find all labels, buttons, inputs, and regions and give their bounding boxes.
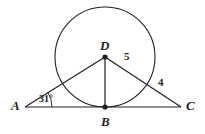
measure-label-4: 4	[158, 77, 164, 88]
segment-ad	[25, 57, 105, 107]
angle-label-a: 31°	[39, 94, 53, 104]
vertex-dot-d	[102, 54, 107, 59]
vertex-label-d: D	[100, 39, 109, 52]
vertex-dot-b	[102, 104, 107, 109]
measure-label-5: 5	[124, 51, 130, 62]
vertex-label-a: A	[11, 99, 20, 112]
segment-dc	[105, 57, 181, 107]
vertex-label-c: C	[186, 99, 195, 112]
vertex-label-b: B	[101, 115, 110, 128]
geometry-figure: A B C D 5 4 31°	[0, 0, 205, 134]
